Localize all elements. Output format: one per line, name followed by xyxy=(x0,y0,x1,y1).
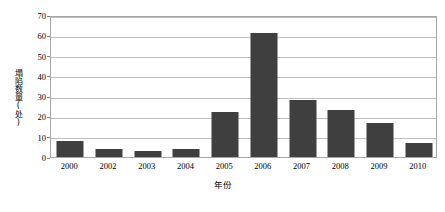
bar-2002 xyxy=(96,149,123,157)
x-tick-label-2003: 2003 xyxy=(138,161,155,171)
y-tick-mark-40 xyxy=(47,76,50,77)
y-tick-mark-60 xyxy=(47,36,50,37)
y-tick-mark-20 xyxy=(47,117,50,118)
x-tick-label-2007: 2007 xyxy=(293,161,310,171)
x-tick-label-2005: 2005 xyxy=(216,161,233,171)
x-tick-label-2000: 2000 xyxy=(61,161,78,171)
bar-2000 xyxy=(57,141,84,157)
y-tick-label-20: 20 xyxy=(26,112,46,122)
bar-chart: 塌陷数量(处) 010203040506070 2000200220032004… xyxy=(0,0,445,212)
bar-slot xyxy=(51,17,90,157)
bar-slot xyxy=(322,17,361,157)
y-tick-mark-30 xyxy=(47,97,50,98)
plot-area xyxy=(50,16,437,158)
y-tick-mark-70 xyxy=(47,16,50,17)
bar-2005 xyxy=(212,112,239,157)
bar-2006 xyxy=(250,33,277,157)
bar-2010 xyxy=(405,143,432,157)
x-axis-tick-labels: 2000200220032004200520062007200820092010 xyxy=(50,161,437,175)
y-tick-label-40: 40 xyxy=(26,72,46,82)
x-tick-label-2006: 2006 xyxy=(254,161,271,171)
y-axis-tick-labels: 010203040506070 xyxy=(26,16,46,158)
bar-slot xyxy=(206,17,245,157)
bar-2003 xyxy=(134,151,161,157)
bar-slot xyxy=(90,17,129,157)
y-tick-mark-10 xyxy=(47,137,50,138)
x-tick-label-2002: 2002 xyxy=(100,161,117,171)
x-axis-title: 年份 xyxy=(0,178,445,190)
x-tick-label-2010: 2010 xyxy=(409,161,426,171)
y-tick-label-70: 70 xyxy=(26,11,46,21)
y-tick-mark-0 xyxy=(47,158,50,159)
bar-slot xyxy=(167,17,206,157)
bar-slot xyxy=(283,17,322,157)
y-tick-label-10: 10 xyxy=(26,133,46,143)
bar-2007 xyxy=(289,100,316,157)
bar-slot xyxy=(361,17,400,157)
y-tick-label-50: 50 xyxy=(26,52,46,62)
bar-2004 xyxy=(173,149,200,157)
bars-layer xyxy=(51,17,436,157)
x-tick-label-2008: 2008 xyxy=(332,161,349,171)
x-tick-label-2004: 2004 xyxy=(177,161,194,171)
y-axis-title: 塌陷数量(处) xyxy=(10,48,26,148)
bar-slot xyxy=(128,17,167,157)
bar-2009 xyxy=(366,123,393,157)
bar-slot xyxy=(245,17,284,157)
y-tick-label-0: 0 xyxy=(26,153,46,163)
bar-2008 xyxy=(328,110,355,157)
y-tick-mark-50 xyxy=(47,56,50,57)
y-tick-label-60: 60 xyxy=(26,31,46,41)
x-tick-label-2009: 2009 xyxy=(370,161,387,171)
y-tick-label-30: 30 xyxy=(26,92,46,102)
bar-slot xyxy=(399,17,438,157)
